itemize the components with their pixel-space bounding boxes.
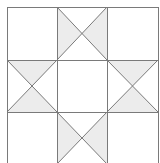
grid-lines xyxy=(7,7,159,163)
shaded-triangle-bottom xyxy=(7,86,57,112)
diagonal-lines xyxy=(7,7,158,163)
shaded-triangle-bottom xyxy=(107,86,158,112)
shaded-triangle-top xyxy=(107,60,158,86)
shaded-triangle-right xyxy=(82,7,107,60)
shaded-triangle-right xyxy=(82,112,107,163)
ohio-star-quilt-block xyxy=(0,0,160,163)
shaded-triangle-top xyxy=(7,60,57,86)
shaded-triangles xyxy=(7,7,158,163)
shaded-triangle-left xyxy=(57,7,82,60)
shaded-triangle-left xyxy=(57,112,82,163)
